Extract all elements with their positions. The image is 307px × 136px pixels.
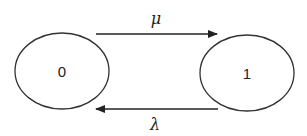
state-node-1: 1: [200, 35, 294, 111]
state-label-0: 0: [58, 63, 66, 80]
rate-label-lambda: λ: [149, 115, 160, 134]
transition-0-to-1: μ: [96, 9, 217, 34]
state-label-1: 1: [243, 65, 251, 82]
transition-1-to-0: λ: [96, 109, 218, 134]
rate-label-mu: μ: [151, 9, 161, 28]
state-diagram: 0 1 μ λ: [0, 0, 307, 136]
state-node-0: 0: [15, 33, 109, 109]
